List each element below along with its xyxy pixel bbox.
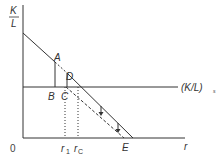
point-c-label: C bbox=[61, 91, 69, 102]
r1-subscript: 1 bbox=[66, 148, 70, 155]
rc-subscript: C bbox=[78, 148, 83, 155]
point-b-label: B bbox=[48, 91, 55, 102]
shifted-line-solid bbox=[67, 73, 133, 138]
y-label-numerator: K bbox=[10, 5, 18, 16]
r1-label: r bbox=[61, 143, 65, 154]
origin-label: 0 bbox=[10, 143, 16, 154]
shift-arrow-icon bbox=[99, 106, 104, 116]
upper-line-solid bbox=[23, 33, 55, 62]
hline-subscript: s bbox=[213, 88, 216, 94]
y-label-denominator: L bbox=[11, 18, 17, 29]
point-a-label: A bbox=[53, 52, 61, 63]
point-e-label: E bbox=[122, 142, 129, 153]
diagram-canvas: K L A D B C E (K/L) s r 0 r 1 r C bbox=[0, 0, 221, 160]
hline-label: (K/L) bbox=[181, 82, 203, 93]
x-axis-label: r bbox=[184, 141, 188, 152]
lower-line-dashed bbox=[66, 87, 124, 138]
point-d-label: D bbox=[66, 71, 73, 82]
